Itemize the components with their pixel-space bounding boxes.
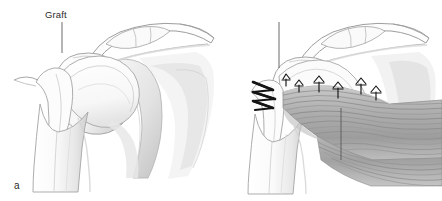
figure-shoulder-graft-reconstruction: Graft a	[0, 0, 442, 201]
panel-letter-a: a	[14, 180, 20, 191]
label-graft-a: Graft	[45, 9, 67, 20]
panel-b: Graft Infraspinatus teres minor b	[221, 0, 442, 201]
panel-b-illustration	[221, 0, 442, 201]
panel-a: Graft a	[0, 0, 221, 201]
shadow-glenoid-a	[108, 120, 139, 178]
panel-a-illustration	[0, 0, 221, 201]
